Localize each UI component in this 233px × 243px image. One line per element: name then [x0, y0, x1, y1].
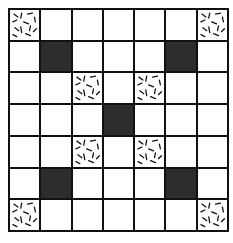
empty-cell: [41, 73, 70, 103]
pattern-grid: [8, 8, 229, 232]
dark-cell: [166, 42, 195, 72]
empty-cell: [198, 73, 227, 103]
dark-cell: [41, 169, 70, 199]
empty-cell: [73, 105, 102, 135]
empty-cell: [73, 200, 102, 230]
empty-cell: [104, 73, 133, 103]
empty-cell: [135, 42, 164, 72]
empty-cell: [135, 200, 164, 230]
empty-cell: [10, 73, 39, 103]
textured-cell: [198, 10, 227, 40]
textured-cell: [198, 200, 227, 230]
empty-cell: [166, 137, 195, 167]
empty-cell: [198, 137, 227, 167]
empty-cell: [198, 169, 227, 199]
dark-cell: [104, 105, 133, 135]
textured-cell: [10, 200, 39, 230]
empty-cell: [166, 10, 195, 40]
textured-cell: [73, 73, 102, 103]
empty-cell: [198, 105, 227, 135]
textured-cell: [135, 137, 164, 167]
empty-cell: [104, 200, 133, 230]
empty-cell: [135, 105, 164, 135]
empty-cell: [166, 105, 195, 135]
empty-cell: [41, 200, 70, 230]
empty-cell: [198, 42, 227, 72]
empty-cell: [135, 169, 164, 199]
empty-cell: [10, 137, 39, 167]
empty-cell: [104, 42, 133, 72]
empty-cell: [73, 42, 102, 72]
empty-cell: [135, 10, 164, 40]
empty-cell: [104, 10, 133, 40]
empty-cell: [73, 169, 102, 199]
empty-cell: [10, 105, 39, 135]
textured-cell: [10, 10, 39, 40]
empty-cell: [166, 73, 195, 103]
empty-cell: [73, 10, 102, 40]
empty-cell: [166, 200, 195, 230]
dark-cell: [41, 42, 70, 72]
empty-cell: [104, 137, 133, 167]
empty-cell: [10, 42, 39, 72]
empty-cell: [41, 137, 70, 167]
empty-cell: [41, 10, 70, 40]
textured-cell: [135, 73, 164, 103]
dark-cell: [166, 169, 195, 199]
empty-cell: [41, 105, 70, 135]
textured-cell: [73, 137, 102, 167]
empty-cell: [10, 169, 39, 199]
empty-cell: [104, 169, 133, 199]
